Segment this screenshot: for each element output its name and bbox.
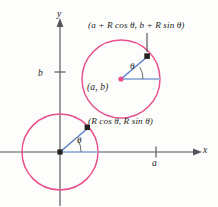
label-axis-x: x (203, 145, 207, 155)
circle-parameterization-figure: (a + R cos θ, b + R sin θ) (R cos θ, R s… (0, 0, 218, 207)
label-point-upper: (a + R cos θ, b + R sin θ) (88, 21, 185, 30)
label-theta-lower: θ (77, 136, 82, 145)
label-theta-upper: θ (130, 62, 135, 71)
label-tick-b: b (38, 68, 43, 78)
origin-point-marker (57, 149, 62, 154)
translated-circle-center-dot (118, 76, 123, 81)
y-axis-arrowhead (57, 18, 64, 27)
figure-canvas (0, 0, 218, 207)
label-point-lower: (R cos θ, R sin θ) (88, 117, 153, 126)
origin-circle-radius-line (60, 128, 88, 152)
label-tick-a: a (152, 158, 157, 168)
label-center-upper: (a, b) (87, 82, 108, 92)
x-axis-arrowhead (193, 149, 202, 156)
translated-circle-angle-arc (140, 68, 143, 80)
translated-circle-group (82, 33, 160, 118)
label-axis-y: y (57, 9, 61, 19)
translated-circle-point-marker (144, 53, 150, 59)
